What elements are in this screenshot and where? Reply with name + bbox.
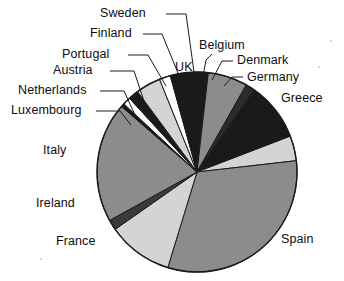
- pie-label-belgium: Belgium: [199, 39, 245, 52]
- pie-label-france: France: [56, 235, 96, 248]
- pie-label-luxembourg: Luxembourg: [11, 104, 82, 117]
- pie-label-uk: UK: [175, 61, 193, 74]
- pie-label-netherlands: Netherlands: [18, 84, 87, 97]
- pie-label-greece: Greece: [281, 92, 323, 105]
- scan-artifact-dot: [40, 258, 42, 260]
- scan-artifact-dot: [330, 40, 332, 42]
- pie-label-spain: Spain: [281, 233, 313, 246]
- pie-label-ireland: Ireland: [36, 197, 75, 210]
- pie-chart: Sweden Finland Portugal Austria Netherla…: [0, 0, 344, 281]
- pie-label-sweden: Sweden: [100, 7, 146, 20]
- pie-label-austria: Austria: [53, 64, 93, 77]
- scan-artifact-dot: [318, 66, 320, 68]
- pie-label-germany: Germany: [247, 71, 299, 84]
- pie-label-denmark: Denmark: [237, 54, 288, 67]
- pie-label-portugal: Portugal: [62, 48, 109, 61]
- pie-label-italy: Italy: [43, 144, 66, 157]
- pie-slice-group: [97, 72, 297, 272]
- pie-label-finland: Finland: [90, 27, 132, 40]
